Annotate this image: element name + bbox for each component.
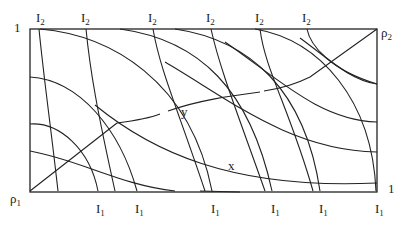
connecting-path xyxy=(30,29,377,191)
label-point-y: y xyxy=(181,104,188,119)
label-top-left: 1 xyxy=(14,20,21,35)
i2-curve-5 xyxy=(260,29,313,191)
i1-curve-1 xyxy=(30,124,98,191)
label-i1-4: I1 xyxy=(271,201,280,218)
label-bottom-right: 1 xyxy=(388,181,395,196)
diagram-canvas: 1 1 ρ2 ρ1 I2 I2 I2 I2 I2 I2 I1 I1 I1 I1 … xyxy=(0,0,409,226)
label-i1-2: I1 xyxy=(135,201,144,218)
label-i2-6: I2 xyxy=(302,10,311,27)
label-i1-1: I1 xyxy=(96,201,105,218)
label-point-x: x xyxy=(228,158,235,173)
i2-curve-3 xyxy=(153,29,205,191)
label-rho1: ρ1 xyxy=(10,191,21,208)
label-i2-3: I2 xyxy=(148,10,157,27)
label-i2-5: I2 xyxy=(255,10,264,27)
label-i1-5: I1 xyxy=(319,201,328,218)
i2-curve-4 xyxy=(211,29,265,191)
unit-square-frame xyxy=(30,29,377,192)
label-i2-2: I2 xyxy=(81,10,90,27)
i1-curve-4 xyxy=(120,29,272,191)
i2-curve-6 xyxy=(307,29,377,84)
label-i1-6: I1 xyxy=(375,201,384,218)
label-i2-4: I2 xyxy=(206,10,215,27)
lower-cross-curve-1 xyxy=(30,151,175,191)
lower-cross-curve-2 xyxy=(95,105,377,184)
lower-cross-curve-4 xyxy=(225,42,377,122)
label-i2-1: I2 xyxy=(36,10,45,27)
i2-curve-1 xyxy=(39,29,58,191)
label-i1-3: I1 xyxy=(211,201,220,218)
label-rho2: ρ2 xyxy=(381,25,392,42)
lower-cross-curve-5 xyxy=(300,38,377,84)
